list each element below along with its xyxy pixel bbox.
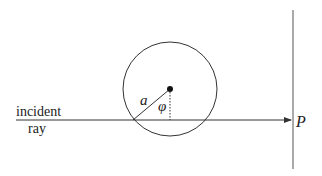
point-p-label: P xyxy=(295,113,306,130)
center-dot xyxy=(167,86,173,92)
ray-label: ray xyxy=(28,121,46,136)
incident-label: incident xyxy=(16,104,61,119)
radius-label: a xyxy=(140,92,148,108)
ray-scattering-diagram: incident ray a φ P xyxy=(0,0,322,176)
angle-label: φ xyxy=(158,98,166,114)
